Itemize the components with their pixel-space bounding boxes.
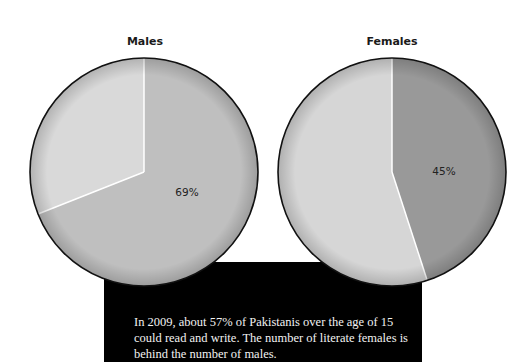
females-pct-label: 45% <box>432 165 455 177</box>
males-pct-label: 69% <box>175 186 198 198</box>
caption-text: In 2009, about 57% of Pakistanis over th… <box>134 314 424 362</box>
males-pie-chart: 69% 45% <box>0 0 530 362</box>
